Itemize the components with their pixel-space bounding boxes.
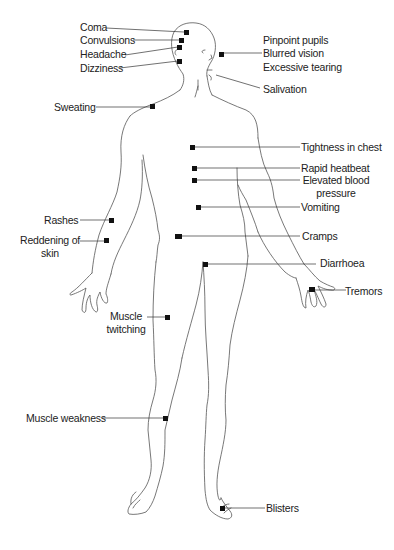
label-muscle-weakness: Muscle weakness [26, 412, 106, 425]
marker-headache [177, 45, 182, 50]
label-muscle-twitching-line1: Muscle [104, 310, 148, 323]
label-elevated-blood-pressure: Elevated blood pressure [301, 174, 371, 200]
label-dizziness: Dizziness [80, 62, 123, 75]
marker-blisters [220, 506, 225, 511]
marker-muscle-weakness [163, 416, 168, 421]
label-rashes: Rashes [44, 214, 78, 227]
label-muscle-twitching: Muscle twitching [104, 310, 148, 336]
marker-dizziness [177, 59, 182, 64]
marker-convulsions [179, 38, 184, 43]
marker-elevated-bp [192, 178, 197, 183]
marker-sweating [150, 104, 155, 109]
label-vomiting: Vomiting [301, 201, 340, 214]
marker-cramps [175, 234, 182, 239]
marker-reddening-of-skin [104, 238, 109, 243]
marker-muscle-twitching [165, 315, 170, 320]
marker-tremors [309, 287, 315, 292]
label-reddening-of-skin: Reddening of skin [20, 234, 80, 260]
label-pinpoint-pupils: Pinpoint pupils [263, 34, 328, 47]
symptom-diagram: Coma Convulsions Headache Dizziness Swea… [0, 0, 394, 550]
marker-vomiting [196, 205, 201, 210]
human-body-outline [0, 0, 394, 550]
marker-coma [184, 30, 189, 35]
label-tremors: Tremors [345, 285, 382, 298]
marker-diarrhoea [203, 262, 208, 267]
label-blisters: Blisters [266, 502, 299, 515]
marker-rapid-heartbeat [192, 166, 197, 171]
label-elevated-blood-pressure-line1: Elevated blood [301, 174, 371, 187]
label-blurred-vision: Blurred vision [263, 47, 324, 60]
marker-eyes [219, 52, 224, 57]
label-headache: Headache [80, 48, 126, 61]
marker-rashes [109, 218, 114, 223]
label-sweating: Sweating [54, 101, 96, 114]
label-reddening-of-skin-line2: skin [20, 247, 80, 260]
label-excessive-tearing: Excessive tearing [263, 61, 342, 74]
label-muscle-twitching-line2: twitching [104, 323, 148, 336]
label-elevated-blood-pressure-line2: pressure [301, 187, 371, 200]
label-tightness-in-chest: Tightness in chest [301, 141, 382, 154]
label-convulsions: Convulsions [80, 34, 135, 47]
label-cramps: Cramps [302, 230, 338, 243]
label-coma: Coma [80, 21, 107, 34]
label-reddening-of-skin-line1: Reddening of [20, 234, 80, 247]
label-salivation: Salivation [263, 83, 307, 96]
marker-tightness-in-chest [190, 145, 195, 150]
label-diarrhoea: Diarrhoea [320, 257, 364, 270]
